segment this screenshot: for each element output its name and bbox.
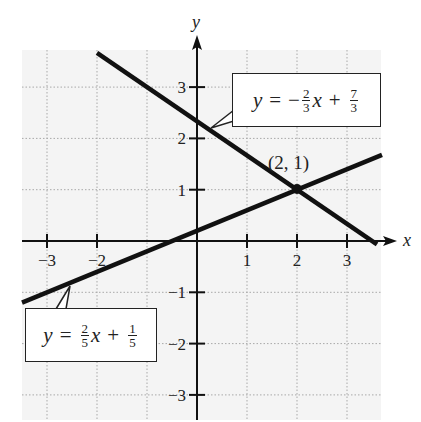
eq-top-intercept-den: 3 xyxy=(351,101,358,114)
eq-bottom-equals: = xyxy=(60,323,72,348)
eq-top-slope-den: 3 xyxy=(303,101,310,114)
eq-bottom-intercept-den: 5 xyxy=(129,336,136,349)
y-tick-label: −1 xyxy=(168,283,186,302)
eq-top-slope-fraction: 2 3 xyxy=(302,87,311,114)
x-tick-label: 1 xyxy=(243,251,252,270)
x-axis-label: x xyxy=(402,230,411,250)
y-tick-label: −2 xyxy=(168,335,186,354)
x-tick-label: −3 xyxy=(38,251,56,270)
eq-top-intercept-fraction: 7 3 xyxy=(350,87,359,114)
eq-top-plus: + xyxy=(329,88,341,113)
x-tick-label: 2 xyxy=(293,251,302,270)
eq-bottom-slope-num: 2 xyxy=(81,322,90,336)
eq-top-sign: − xyxy=(288,88,300,113)
eq-bottom-intercept-fraction: 1 5 xyxy=(128,322,137,349)
eq-top-slope-num: 2 xyxy=(302,87,311,101)
equation-callout-bottom: y = 2 5 x + 1 5 xyxy=(25,308,157,362)
eq-top-var: x xyxy=(312,88,321,113)
eq-top-lhs: y xyxy=(253,88,262,113)
eq-bottom-lhs: y xyxy=(43,323,52,348)
intersection-point xyxy=(292,184,302,194)
eq-bottom-plus: + xyxy=(107,323,119,348)
eq-bottom-slope-den: 5 xyxy=(82,336,89,349)
y-tick-label: 2 xyxy=(178,129,187,148)
eq-bottom-slope-fraction: 2 5 xyxy=(81,322,90,349)
equation-callout-top: y = − 2 3 x + 7 3 xyxy=(232,73,381,127)
y-axis-label: y xyxy=(190,12,200,32)
eq-bottom-intercept-num: 1 xyxy=(128,322,137,336)
y-tick-label: −3 xyxy=(168,386,186,405)
y-tick-label: 1 xyxy=(178,181,187,200)
intersection-label: (2, 1) xyxy=(268,152,309,174)
eq-top-equals: = xyxy=(269,88,281,113)
x-tick-label: 3 xyxy=(343,251,352,270)
eq-bottom-var: x xyxy=(91,323,100,348)
eq-top-intercept-num: 7 xyxy=(350,87,359,101)
y-tick-label: 3 xyxy=(178,78,187,97)
